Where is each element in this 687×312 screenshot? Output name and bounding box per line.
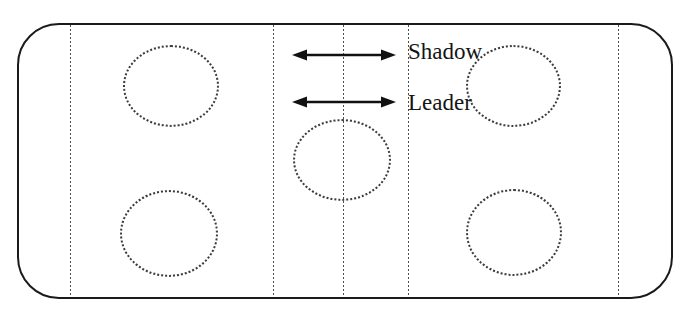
leader-label: Leader [408, 91, 472, 114]
rink-drill-diagram: Shadow Leader [0, 0, 687, 312]
blue-line-left [273, 25, 274, 297]
goal-line-right [618, 25, 619, 297]
shadow-label: Shadow [408, 40, 482, 63]
faceoff-circle-center [293, 119, 391, 201]
faceoff-circle-bottom-right [466, 189, 562, 276]
goal-line-left [70, 25, 71, 297]
faceoff-circle-bottom-left [120, 190, 218, 277]
rink-outline [17, 23, 673, 299]
faceoff-circle-top-left [123, 45, 219, 127]
blue-line-right [408, 25, 409, 297]
